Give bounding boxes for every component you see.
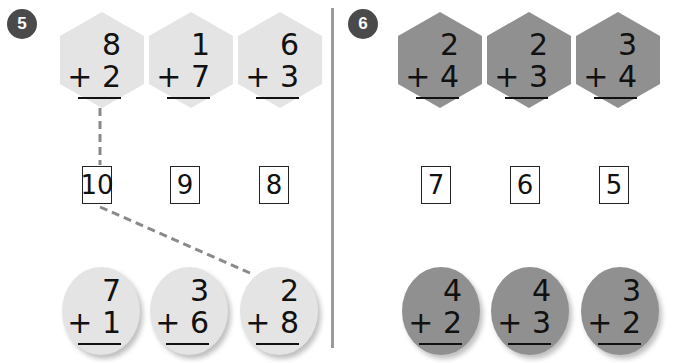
- sum-line: [505, 97, 548, 99]
- addend-top: 3: [622, 276, 641, 306]
- addend-bottom: + 3: [494, 62, 548, 92]
- sum-line: [419, 343, 462, 345]
- addend-bottom: + 2: [408, 308, 462, 338]
- answer-box[interactable]: 7: [421, 166, 451, 204]
- addend-top: 4: [443, 276, 462, 306]
- addend-top: 4: [532, 276, 551, 306]
- addend-bottom: + 4: [405, 62, 459, 92]
- exercise-number-badge: 6: [348, 9, 378, 39]
- addend-bottom: + 4: [583, 62, 637, 92]
- sum-line: [594, 97, 637, 99]
- addend-top: 2: [529, 30, 548, 60]
- sum-line: [416, 97, 459, 99]
- sum-line: [598, 343, 641, 345]
- matching-dashed-lines: [0, 0, 673, 363]
- answer-box[interactable]: 5: [599, 166, 629, 204]
- addend-top: 3: [618, 30, 637, 60]
- section-divider: [331, 8, 334, 348]
- answer-box[interactable]: 6: [510, 166, 540, 204]
- sum-line: [508, 343, 551, 345]
- addend-bottom: + 3: [497, 308, 551, 338]
- addend-bottom: + 2: [587, 308, 641, 338]
- addend-top: 2: [440, 30, 459, 60]
